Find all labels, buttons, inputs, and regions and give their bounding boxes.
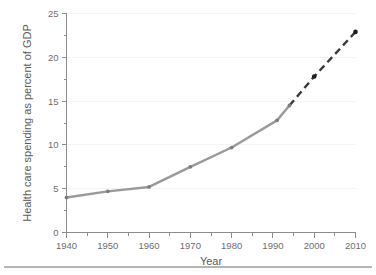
- y-tick-label: 0: [53, 227, 58, 238]
- x-axis-title: Year: [200, 255, 223, 267]
- data-point-marker: [288, 104, 292, 108]
- data-point-marker: [106, 189, 110, 193]
- y-tick-label: 10: [48, 139, 59, 150]
- data-point-marker: [188, 165, 192, 169]
- series-line-projected: [289, 32, 355, 106]
- y-axis-title: Health care spending as percent of GDP: [21, 24, 33, 222]
- y-tick-label: 25: [48, 8, 59, 19]
- data-point-marker: [230, 146, 234, 150]
- bottom-divider-rule: [4, 266, 372, 268]
- x-tick-label: 1970: [180, 240, 201, 251]
- data-point-marker: [312, 74, 317, 79]
- x-tick-label: 2010: [345, 240, 366, 251]
- x-tick-label: 2000: [304, 240, 325, 251]
- series-line-actual: [67, 105, 290, 197]
- line-chart-canvas: 0510152025 19401950196019701980199020002…: [0, 0, 376, 275]
- x-axis-tick-labels: 19401950196019701980199020002010: [56, 240, 366, 251]
- x-tick-label: 1990: [262, 240, 283, 251]
- chart-figure: 0510152025 19401950196019701980199020002…: [0, 0, 376, 275]
- data-point-marker: [353, 30, 358, 35]
- data-point-marker: [147, 185, 151, 189]
- y-axis-tick-labels: 0510152025: [48, 8, 59, 238]
- gridlines: [67, 14, 356, 189]
- x-tick-label: 1950: [97, 240, 118, 251]
- data-series-layer: [67, 32, 356, 198]
- x-tick-label: 1940: [56, 240, 77, 251]
- data-point-marker: [275, 118, 279, 122]
- x-tick-label: 1980: [221, 240, 242, 251]
- y-tick-label: 5: [53, 183, 58, 194]
- x-tick-label: 1960: [139, 240, 160, 251]
- y-tick-label: 15: [48, 96, 59, 107]
- y-tick-label: 20: [48, 52, 59, 63]
- data-point-markers: [65, 30, 358, 200]
- data-point-marker: [65, 196, 69, 200]
